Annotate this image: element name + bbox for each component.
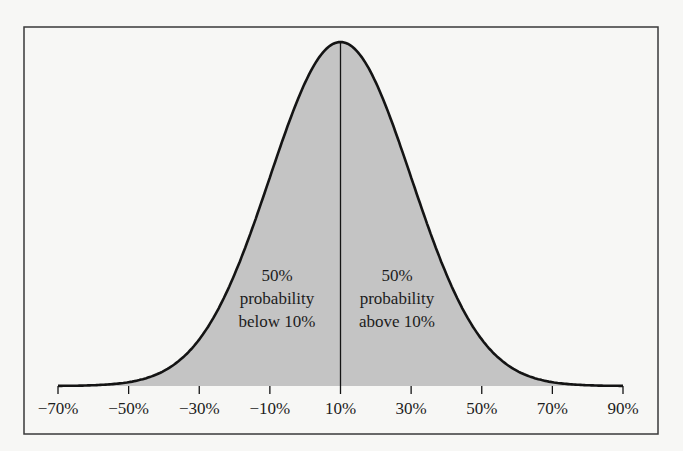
annotation-right-line-2: probability — [360, 289, 435, 308]
normal-distribution-chart: −70%−50%−30%−10%10%30%50%70%90% 50% prob… — [0, 0, 683, 451]
x-tick-label: −50% — [108, 399, 149, 418]
x-tick-label: −30% — [179, 399, 220, 418]
annotation-right-line-3: above 10% — [359, 312, 435, 331]
x-tick-label: 10% — [325, 399, 356, 418]
annotation-right-line-1: 50% — [381, 266, 412, 285]
x-tick-label: 90% — [607, 399, 638, 418]
x-tick-label: 30% — [396, 399, 427, 418]
x-tick-label: −70% — [38, 399, 79, 418]
annotation-left-line-1: 50% — [261, 266, 292, 285]
x-tick-label: 70% — [537, 399, 568, 418]
x-axis: −70%−50%−30%−10%10%30%50%70%90% — [38, 386, 639, 418]
annotation-left-line-3: below 10% — [239, 312, 316, 331]
x-tick-label: −10% — [250, 399, 291, 418]
annotation-left-line-2: probability — [240, 289, 315, 308]
x-tick-label: 50% — [466, 399, 497, 418]
